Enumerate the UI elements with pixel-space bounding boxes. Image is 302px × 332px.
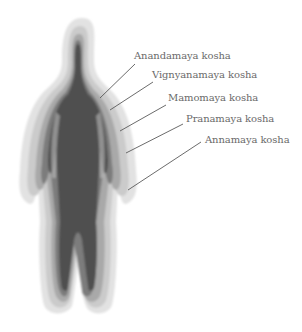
label-vignyanamaya-kosha: Vignyanamaya kosha	[152, 69, 257, 80]
label-annamaya-kosha: Annamaya kosha	[205, 134, 290, 145]
human-silhouette	[19, 18, 136, 313]
leader-line-pranamaya	[126, 124, 183, 153]
label-anandamaya-kosha: Anandamaya kosha	[134, 50, 231, 61]
leader-line-annamaya	[128, 142, 201, 190]
label-pranamaya-kosha: Pranamaya kosha	[186, 113, 274, 124]
leader-line-vignyanamaya	[110, 82, 153, 110]
label-manomaya-kosha: Mamomaya kosha	[168, 92, 258, 103]
leader-line-anandamaya	[100, 64, 135, 98]
